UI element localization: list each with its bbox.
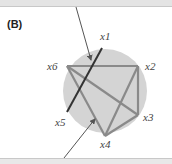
arrow-in-top bbox=[76, 7, 91, 60]
node-label-x2: x2 bbox=[144, 60, 156, 72]
node-label-x6: x6 bbox=[46, 60, 58, 72]
node-label-x3: x3 bbox=[142, 111, 154, 123]
node-label-x4: x4 bbox=[99, 138, 111, 150]
arrow-in-bottom bbox=[64, 119, 95, 158]
graph-diagram: x1 x2 x3 x4 x5 x6 bbox=[0, 0, 172, 164]
bottom-panel-border bbox=[0, 158, 172, 164]
node-label-x1: x1 bbox=[99, 30, 110, 42]
node-label-x5: x5 bbox=[54, 116, 66, 128]
